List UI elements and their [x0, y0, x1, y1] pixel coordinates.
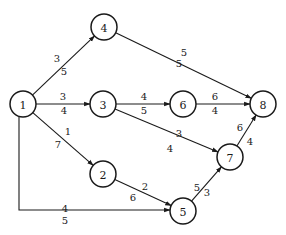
edge-4-8-bottom-label: 5 — [176, 58, 182, 69]
edge-3-7-top-label: 3 — [176, 128, 182, 139]
edge-1-3-top-label: 3 — [60, 91, 66, 102]
node-5: 5 — [170, 198, 196, 224]
edge-1-5-top-label: 4 — [62, 203, 68, 214]
node-7: 7 — [217, 144, 243, 170]
edge-6-8-top-label: 6 — [212, 91, 218, 102]
edge-4-8 — [116, 33, 252, 99]
node-label: 8 — [260, 99, 267, 112]
node-label: 3 — [100, 99, 107, 112]
edge-labels-group: 3534174555453464265364 — [54, 47, 253, 226]
edge-1-5-bottom-label: 5 — [62, 215, 68, 226]
node-label: 1 — [20, 99, 27, 112]
node-8: 8 — [250, 91, 276, 117]
node-6: 6 — [170, 91, 196, 117]
edge-1-4-bottom-label: 5 — [61, 66, 67, 77]
edge-5-7-bottom-label: 3 — [204, 187, 210, 198]
edge-4-8-top-label: 5 — [181, 47, 187, 58]
edge-3-6-bottom-label: 5 — [141, 105, 147, 116]
edge-1-3-bottom-label: 4 — [61, 105, 67, 116]
node-label: 2 — [100, 169, 107, 182]
node-label: 6 — [180, 99, 187, 112]
edge-1-2-top-label: 1 — [65, 126, 71, 137]
node-2: 2 — [90, 161, 116, 187]
edge-2-5-bottom-label: 6 — [130, 192, 136, 203]
node-label: 5 — [180, 206, 187, 219]
edge-1-2 — [33, 113, 93, 166]
node-4: 4 — [91, 14, 117, 40]
edge-7-8-top-label: 6 — [237, 122, 243, 133]
edge-1-4-top-label: 3 — [54, 53, 60, 64]
node-3: 3 — [90, 91, 116, 117]
node-label: 7 — [227, 152, 234, 165]
node-1: 1 — [10, 91, 36, 117]
edge-5-7-top-label: 5 — [194, 182, 200, 193]
edge-7-8-bottom-label: 4 — [247, 136, 253, 147]
edge-3-6-top-label: 4 — [141, 91, 147, 102]
node-label: 4 — [101, 22, 108, 35]
network-diagram: 12345678 3534174555453464265364 — [0, 0, 286, 235]
edge-1-2-bottom-label: 7 — [55, 139, 61, 150]
edge-6-8-bottom-label: 4 — [212, 105, 218, 116]
edge-2-5-top-label: 2 — [142, 181, 148, 192]
edge-3-7-bottom-label: 4 — [167, 143, 173, 154]
